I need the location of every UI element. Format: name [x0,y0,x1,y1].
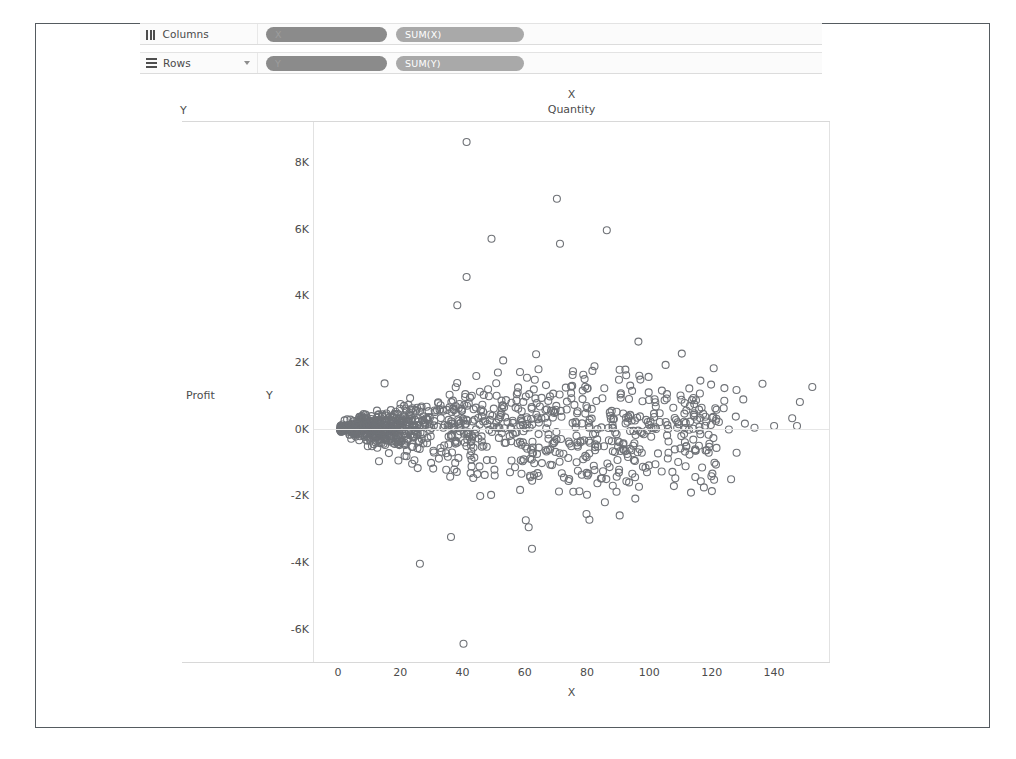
rows-shelf[interactable]: Rows Y SUM(Y) [140,52,822,74]
scatter-point [705,431,712,438]
y-tick-label: -2K [291,489,309,502]
scatter-point [474,471,481,478]
scatter-point [454,302,461,309]
scatter-point [522,517,529,524]
scatter-point [658,387,665,394]
scatter-point [741,420,748,427]
scatter-point [759,380,766,387]
scatter-point [672,475,679,482]
scatter-point [455,454,462,461]
scatter-point [740,396,747,403]
scatter-point [448,534,455,541]
chart-region: Y X Quantity Profit Y -6K-4K-2K0K2K4K6K8… [140,86,860,711]
scatter-point [686,385,693,392]
scatter-point [573,459,580,466]
scatter-point [407,395,414,402]
y-tick-label: -4K [291,556,309,569]
y-tick-label: 0K [295,422,309,435]
scatter-point [636,483,643,490]
scatter-point [720,405,727,412]
scatter-point [626,396,633,403]
scatter-point [488,235,495,242]
scatter-point [581,376,588,383]
scatter-point [584,385,591,392]
scatter-point [613,473,620,480]
zero-reference-line [314,429,829,430]
scatter-point [675,459,682,466]
scatter-point [447,473,454,480]
scatter-point [525,524,532,531]
x-tick-label: 140 [763,666,784,679]
scatter-point [535,431,542,438]
scatter-point [381,380,388,387]
scatter-point [613,408,620,415]
screenshot-root: Columns X SUM(X) Rows Y SUM(Y) Y X Quant… [0,0,1016,759]
scatter-point [508,457,515,464]
scatter-point [678,350,685,357]
scatter-point [600,468,607,475]
pill-rows-measure[interactable]: SUM(Y) [396,56,524,71]
scatter-point [809,384,816,391]
scatter-point [493,380,500,387]
columns-shelf[interactable]: Columns X SUM(X) [140,23,822,45]
scatter-point [710,365,717,372]
scatter-point [631,440,638,447]
scatter-point [494,369,501,376]
scatter-point [700,484,707,491]
scatter-point [416,560,423,567]
pill-columns-measure[interactable]: SUM(X) [396,27,524,42]
scatter-point [543,382,550,389]
scatter-point [531,376,538,383]
column-title-measure: Quantity [313,102,830,117]
y-tick-label: 8K [295,156,309,169]
pill-rows-dimension[interactable]: Y [266,56,387,71]
scatter-point [556,391,563,398]
scatter-point [662,361,669,368]
scatter-point [468,463,475,470]
scatter-point [530,386,537,393]
scatter-point [601,499,608,506]
scatter-point [601,385,608,392]
shelf-area: Columns X SUM(X) Rows Y SUM(Y) [140,11,822,75]
scatter-point [500,357,507,364]
scatter-point [632,495,639,502]
pill-columns-dimension[interactable]: X [266,27,387,42]
scatter-point [518,470,525,477]
scatter-point [721,385,728,392]
scatter-point [733,449,740,456]
scatter-point [529,545,536,552]
scatter-point [517,486,524,493]
scatter-point [579,396,586,403]
y-tick-label: 6K [295,222,309,235]
scatter-point [664,391,671,398]
scatter-point [452,459,459,466]
scatter-point [556,488,563,495]
scatter-point [512,464,519,471]
scatter-plot-area[interactable] [313,122,830,662]
scatter-point [696,390,703,397]
scatter-point [580,371,587,378]
row-field-label: Profit [186,389,215,402]
x-tick-label: 0 [334,666,341,679]
scatter-point [463,139,470,146]
scatter-point [682,463,689,470]
scatter-point [463,274,470,281]
scatter-point [545,397,552,404]
scatter-point [454,380,461,387]
scatter-point [652,461,659,468]
scatter-point [586,516,593,523]
scatter-point [535,366,542,373]
scatter-point [558,436,565,443]
scatter-point [517,369,524,376]
scatter-point [796,399,803,406]
x-tick-label: 80 [580,666,594,679]
y-tick-label: -6K [291,622,309,635]
chevron-down-icon[interactable] [244,61,250,65]
scatter-point [395,457,402,464]
scatter-point [658,468,665,475]
scatter-point [603,227,610,234]
scatter-point [565,455,572,462]
columns-shelf-label-box: Columns [140,24,258,44]
scatter-point [449,397,456,404]
scatter-point [692,474,699,481]
